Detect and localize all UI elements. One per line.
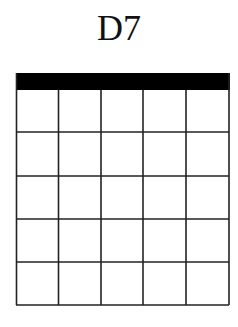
fretboard-grid bbox=[0, 0, 238, 327]
